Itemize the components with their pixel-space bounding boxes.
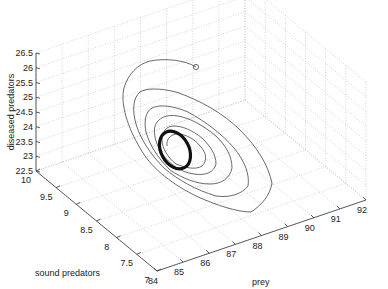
prey-tick	[206, 250, 209, 253]
prey-tick	[311, 215, 314, 218]
wall-grid-line	[245, 56, 366, 156]
wall-grid-line	[245, 12, 366, 112]
prey-tick	[363, 197, 366, 200]
wall-grid-line	[36, 0, 245, 53]
prey-tick-label: 85	[174, 267, 184, 277]
sound-tick-label: 9.5	[40, 192, 53, 202]
floor-grid-line	[114, 144, 235, 244]
spiral-trajectory	[123, 60, 272, 212]
prey-tick-label: 90	[305, 223, 315, 233]
z-tick-label: 22.5	[15, 166, 33, 176]
prey-tick	[337, 206, 340, 209]
prey-tick-label: 92	[357, 205, 367, 215]
floor-grid-line	[62, 162, 183, 262]
sound-tick-label: 10	[21, 175, 31, 185]
prey-tick	[154, 268, 157, 271]
z-tick-label: 24.5	[15, 107, 33, 117]
z-tick	[36, 127, 40, 128]
z-tick-label: 24	[23, 122, 33, 132]
sound-tick-label: 7	[144, 275, 149, 285]
prey-tick	[232, 241, 235, 244]
sound-tick-label: 7.5	[121, 258, 134, 268]
prey-tick-label: 86	[200, 258, 210, 268]
prey-tick	[180, 259, 183, 262]
wall-grid-line	[245, 100, 366, 200]
wall-grid-line	[245, 71, 366, 171]
z-tick-label: 23	[23, 151, 33, 161]
z-tick	[36, 156, 40, 157]
z-tick-label: 26.5	[15, 48, 33, 58]
z-tick-label: 26	[23, 63, 33, 73]
z-tick	[36, 83, 40, 84]
prey-tick-label: 87	[226, 249, 236, 259]
z-tick	[36, 97, 40, 98]
sound-tick-label: 8.5	[80, 225, 93, 235]
z-tick	[36, 142, 40, 143]
limit-cycle	[153, 126, 197, 174]
sound-tick-label: 8	[104, 242, 109, 252]
trajectory	[123, 60, 272, 212]
sound-tick-label: 9	[64, 208, 69, 218]
prey-tick-label: 89	[279, 232, 289, 242]
axes	[36, 53, 366, 271]
z-tick-label: 25	[23, 92, 33, 102]
z-tick	[36, 112, 40, 113]
z-tick-label: 25.5	[15, 78, 33, 88]
wall-grid-line	[245, 26, 366, 126]
prey-tick	[259, 233, 262, 236]
x-axis-label: prey	[252, 277, 270, 287]
y-axis-label: sound predators	[35, 268, 101, 278]
z-tick	[36, 53, 40, 54]
phase-plot-3d: diseased predators sound predators prey …	[0, 0, 388, 289]
z-tick-label: 23.5	[15, 137, 33, 147]
prey-tick-label: 91	[331, 214, 341, 224]
prey-tick-label: 88	[252, 241, 262, 251]
prey-tick	[285, 224, 288, 227]
z-tick	[36, 68, 40, 69]
